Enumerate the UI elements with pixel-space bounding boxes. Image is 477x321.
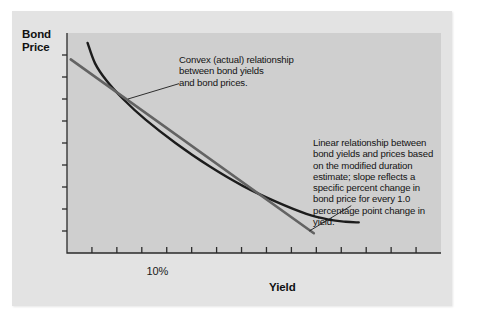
- annotation-linear-text: Linear relationship between bond yields …: [313, 137, 453, 227]
- y-axis-title: Bond Price: [22, 28, 51, 53]
- leader-line-convex: [128, 84, 179, 99]
- chart-figure: Bond Price Yield 10% Convex (actual) rel…: [0, 0, 477, 321]
- x-axis-tick-label-10-percent: 10%: [147, 265, 169, 277]
- annotation-convex-text: Convex (actual) relationship between bon…: [179, 54, 309, 88]
- x-axis-title: Yield: [269, 281, 296, 294]
